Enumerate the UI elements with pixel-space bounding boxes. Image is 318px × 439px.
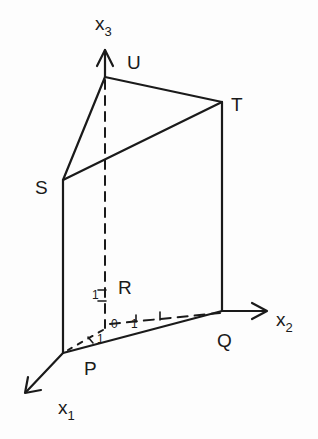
edge-US bbox=[63, 77, 105, 180]
edge-UT bbox=[105, 77, 222, 102]
diagram-canvas bbox=[0, 0, 318, 439]
edge-ST bbox=[63, 102, 222, 180]
x1-unit-tick: 1 bbox=[97, 333, 104, 345]
vertex-R-label: R bbox=[118, 278, 132, 297]
vertex-P-label: P bbox=[84, 359, 97, 378]
x1-axis bbox=[26, 353, 63, 392]
x2-unit-tick: 1 bbox=[131, 318, 138, 330]
edge-RQ-hidden bbox=[110, 313, 220, 324]
edge-PQ bbox=[63, 311, 222, 353]
vertex-S-label: S bbox=[35, 178, 48, 197]
x1-axis-label: x1 bbox=[58, 398, 75, 417]
prism-diagram: x3 x2 x1 U T S R Q P 1 0 1 1 bbox=[0, 0, 318, 439]
vertex-U-label: U bbox=[127, 53, 141, 72]
vertex-T-label: T bbox=[231, 95, 243, 114]
origin-tick: 0 bbox=[111, 318, 118, 330]
vertex-Q-label: Q bbox=[217, 331, 232, 350]
x2-axis-label: x2 bbox=[276, 310, 293, 329]
x3-unit-tick: 1 bbox=[92, 289, 99, 301]
x3-axis-label: x3 bbox=[95, 14, 112, 33]
